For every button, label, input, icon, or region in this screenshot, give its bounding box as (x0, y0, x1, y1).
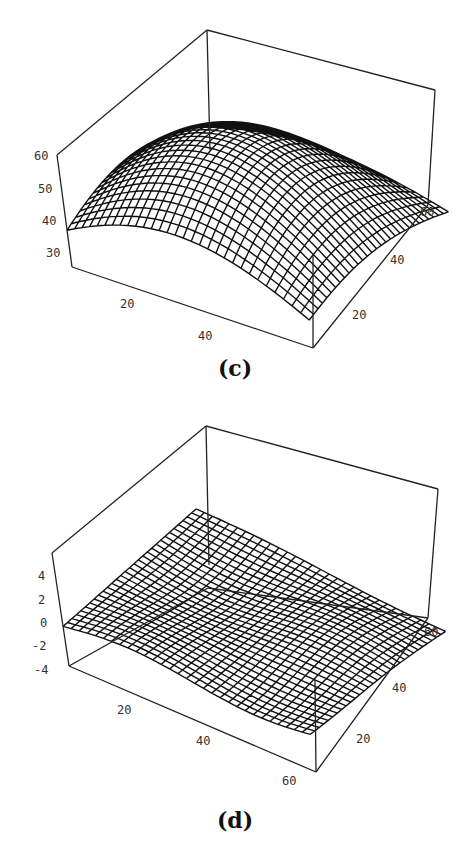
surface-plot-c: 60 50 40 30 20 40 60 20 40 60 (c) (0, 0, 470, 420)
x-axis-ticks-c: 20 40 60 (120, 297, 294, 360)
y-tick-label: 20 (352, 308, 366, 322)
panel-caption-d: (d) (0, 807, 470, 833)
x-tick-label: 40 (198, 329, 212, 343)
x-tick-label: 60 (282, 774, 296, 788)
z-tick-label: 4 (38, 569, 45, 583)
surface-mesh-d (63, 509, 446, 734)
x-tick-label: 20 (117, 703, 131, 717)
z-tick-label: -2 (32, 639, 46, 653)
z-tick-label: 2 (38, 593, 45, 607)
surface-plot-d: 4 2 0 -2 -4 20 40 60 20 40 60 (d) (0, 420, 470, 843)
y-tick-label: 60 (420, 205, 434, 219)
x-tick-label: 40 (196, 734, 210, 748)
y-tick-label: 60 (424, 625, 438, 639)
z-tick-label: 30 (46, 246, 60, 260)
y-tick-label: 40 (392, 681, 406, 695)
bounding-box-d (52, 426, 438, 772)
z-tick-label: -4 (34, 663, 48, 677)
z-axis-ticks-d: 4 2 0 -2 -4 (32, 569, 48, 677)
z-axis-ticks-c: 60 50 40 30 (34, 149, 60, 260)
z-tick-label: 50 (38, 182, 52, 196)
z-tick-label: 40 (42, 214, 56, 228)
x-tick-label: 20 (120, 297, 134, 311)
surface-mesh-c (67, 122, 448, 320)
z-tick-label: 0 (40, 616, 47, 630)
z-tick-label: 60 (34, 149, 48, 163)
panel-caption-c: (c) (0, 355, 470, 381)
surface-plot-c-canvas: 60 50 40 30 20 40 60 20 40 60 (0, 0, 470, 360)
y-tick-label: 40 (390, 253, 404, 267)
y-tick-label: 20 (356, 732, 370, 746)
surface-plot-d-canvas: 4 2 0 -2 -4 20 40 60 20 40 60 (0, 420, 470, 800)
